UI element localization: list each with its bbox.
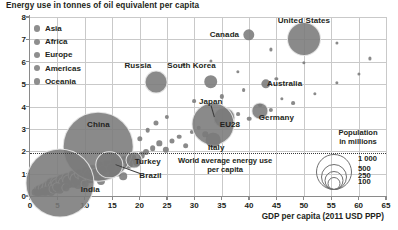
point-label-turkey: Turkey (135, 157, 161, 166)
data-bubble (236, 70, 239, 73)
point-label-japan: Japan (199, 96, 223, 105)
y-tick-label: 7 (22, 35, 26, 44)
data-bubble (247, 116, 252, 121)
y-tick-mark (26, 84, 30, 85)
x-tick-label: 15 (108, 201, 117, 210)
x-tick-label: 35 (217, 201, 226, 210)
data-bubble (291, 101, 295, 105)
world-average-line1: World average energy use (178, 156, 272, 165)
y-tick-label: 4 (22, 102, 26, 111)
y-tick-label: 8 (22, 13, 26, 22)
x-tick-mark (248, 196, 249, 200)
legend-item-label: Americas (45, 64, 81, 73)
data-bubble (163, 147, 169, 153)
point-label-germany: Germany (259, 112, 294, 121)
legend-dot-icon (34, 52, 40, 58)
size-legend-label: 100 (358, 177, 371, 186)
bubble-united-states (287, 22, 321, 56)
legend-item-asia[interactable]: Asia (34, 22, 81, 35)
legend-item-label: Europe (45, 50, 73, 59)
data-bubble (269, 48, 272, 51)
data-bubble (170, 139, 175, 144)
x-tick-mark (358, 196, 359, 200)
x-tick-mark (166, 196, 167, 200)
y-tick-mark (26, 106, 30, 107)
legend-item-africa[interactable]: Africa (34, 35, 81, 48)
point-label-italy: Italy (208, 142, 225, 151)
data-bubble (145, 128, 150, 133)
category-legend: AsiaAfricaEuropeAmericasOceania (34, 22, 81, 88)
data-bubble (357, 72, 360, 75)
data-bubble (368, 57, 371, 60)
point-label-eu28: EU28 (220, 120, 240, 129)
bubble-chart: Energy use in tonnes of oil equivalent p… (0, 0, 398, 230)
data-bubble (183, 143, 189, 149)
y-tick-label: 2 (22, 147, 26, 156)
x-tick-mark (112, 196, 113, 200)
y-tick-mark (26, 151, 30, 152)
x-tick-mark (139, 196, 140, 200)
x-tick-mark (276, 196, 277, 200)
x-tick-label: 65 (382, 201, 391, 210)
legend-dot-icon (34, 25, 40, 31)
x-tick-mark (194, 196, 195, 200)
y-tick-label: 6 (22, 57, 26, 66)
x-tick-mark (331, 196, 332, 200)
point-label-australia: Australia (267, 79, 302, 88)
world-average-annotation: World average energy use per capita (178, 157, 272, 174)
x-tick-mark (303, 196, 304, 200)
data-bubble (335, 41, 338, 44)
size-legend-title: Population in millions (320, 128, 396, 146)
y-tick-label: 3 (22, 124, 26, 133)
data-bubble (302, 61, 305, 64)
legend-item-europe[interactable]: Europe (34, 48, 81, 61)
data-bubble (153, 121, 158, 126)
bubble-russia (145, 70, 168, 93)
y-tick-mark (26, 16, 30, 17)
x-tick-label: 55 (327, 201, 336, 210)
x-tick-label: 60 (354, 201, 363, 210)
legend-item-label: Asia (45, 24, 62, 33)
point-label-united-states: United States (278, 16, 330, 25)
data-bubble (280, 97, 283, 100)
point-label-india: India (81, 185, 100, 194)
data-bubble (177, 134, 182, 139)
size-legend-title-line2: in millions (339, 137, 377, 146)
data-bubble (137, 136, 142, 141)
legend-item-americas[interactable]: Americas (34, 62, 81, 75)
size-legend-label: 1 000 (358, 154, 377, 163)
legend-dot-icon (34, 65, 40, 71)
data-bubble (236, 112, 240, 116)
point-label-china: China (87, 120, 110, 129)
point-label-canada: Canada (210, 29, 240, 38)
legend-item-label: Africa (45, 37, 68, 46)
data-bubble (242, 88, 246, 92)
x-tick-label: 45 (272, 201, 281, 210)
x-tick-mark (221, 196, 222, 200)
size-legend-circle (328, 177, 341, 190)
bubble-south-korea (204, 75, 218, 89)
legend-dot-icon (34, 39, 40, 45)
size-legend-title-line1: Population (338, 128, 377, 137)
data-bubble (157, 141, 162, 146)
gridline-horizontal (30, 17, 386, 18)
x-axis-title: GDP per capita (2011 USD PPP) (262, 212, 384, 221)
size-legend: Population in millions 1 000500250100 (300, 128, 396, 190)
legend-dot-icon (34, 78, 40, 84)
x-tick-label: 40 (245, 201, 254, 210)
data-bubble (192, 99, 196, 103)
data-bubble (165, 114, 169, 118)
y-tick-mark (26, 61, 30, 62)
data-bubble (313, 93, 316, 96)
gridline-horizontal (30, 39, 386, 40)
legend-item-label: Oceania (45, 77, 76, 86)
x-tick-label: 20 (135, 201, 144, 210)
x-tick-label: 30 (190, 201, 199, 210)
point-label-south-korea: South Korea (167, 61, 216, 70)
x-tick-label: 50 (299, 201, 308, 210)
point-label-brazil: Brazil (139, 170, 161, 179)
legend-item-oceania[interactable]: Oceania (34, 75, 81, 88)
point-label-russia: Russia (124, 61, 151, 70)
x-tick-mark (385, 196, 386, 200)
bubble-india (26, 148, 95, 217)
